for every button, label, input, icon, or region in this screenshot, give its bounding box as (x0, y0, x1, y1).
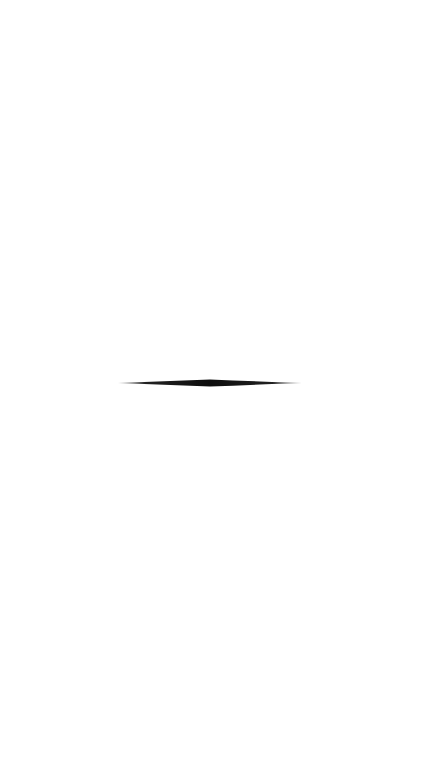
spindle-shape (118, 380, 302, 387)
splash-screen (0, 0, 428, 767)
spindle-loading-icon (0, 0, 428, 767)
